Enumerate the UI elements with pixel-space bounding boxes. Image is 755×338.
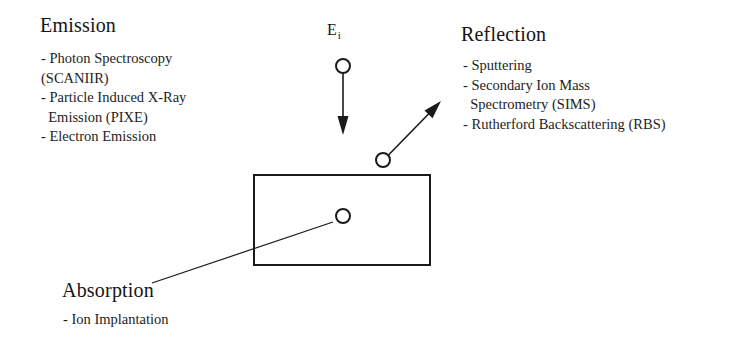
ion-beam-interaction-diagram: Emission - Photon Spectroscopy (SCANIIR)…: [0, 0, 755, 338]
incident-ion-circle: [336, 59, 350, 73]
diagram-line-art: [0, 0, 755, 338]
implanted-ion-circle: [336, 209, 350, 223]
incident-ion-arrowhead: [338, 116, 349, 135]
reflected-particle-circle: [376, 153, 390, 167]
reflected-particle-shaft: [389, 113, 431, 156]
